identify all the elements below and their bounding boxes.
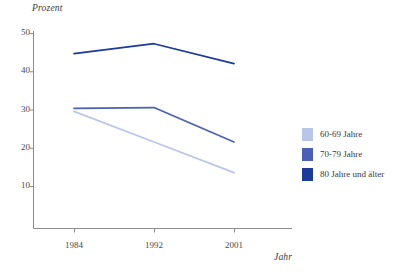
- chart-axes: [30, 31, 293, 233]
- legend-item-60-69: 60-69 Jahre: [302, 128, 384, 141]
- legend-swatch-icon-70-79: [302, 148, 313, 161]
- legend-item-70-79: 70-79 Jahre: [302, 148, 384, 161]
- x-axis-ticks: [75, 229, 235, 233]
- legend-label-60-69: 60-69 Jahre: [320, 128, 362, 141]
- series-line-80-jahre-und-lter: [74, 44, 234, 64]
- legend-item-80-plus: 80 Jahre und älter: [302, 168, 384, 181]
- series-line-60-69-jahre: [74, 111, 234, 172]
- legend-label-80-plus: 80 Jahre und älter: [320, 168, 384, 181]
- legend-label-70-79: 70-79 Jahre: [320, 148, 362, 161]
- legend-swatch-icon-60-69: [302, 128, 313, 141]
- series-line-70-79-jahre: [74, 108, 234, 142]
- chart-series-lines: [74, 44, 234, 173]
- y-axis-ticks: [30, 34, 34, 187]
- chart-container: Prozent Jahr 50 40 30 20 10 1984 1992 20…: [0, 0, 408, 274]
- chart-legend: 60-69 Jahre 70-79 Jahre 80 Jahre und ält…: [302, 128, 384, 181]
- legend-swatch-icon-80-plus: [302, 168, 313, 181]
